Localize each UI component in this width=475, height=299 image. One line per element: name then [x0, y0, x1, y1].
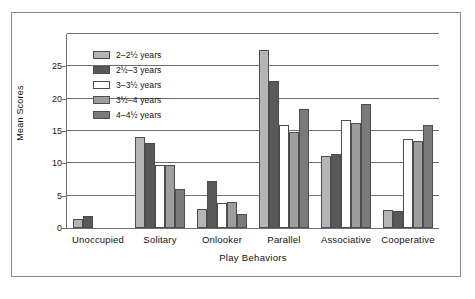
bar: [423, 125, 433, 228]
y-axis-tick-mark: [62, 131, 67, 132]
bar: [175, 189, 185, 228]
bar: [135, 137, 145, 228]
legend-swatch: [93, 81, 110, 89]
bar: [289, 132, 299, 228]
y-axis-tick-mark: [62, 163, 67, 164]
bar: [269, 81, 279, 228]
bar: [331, 154, 341, 228]
legend-item: 3–3½ years: [93, 78, 198, 92]
bar: [351, 123, 361, 228]
legend: 2–2½ years2½–3 years3–3½ years3½–4 years…: [93, 48, 198, 123]
y-axis-title: Mean Scores: [15, 68, 25, 158]
y-axis-tick-label: 0: [40, 224, 62, 233]
bar: [321, 156, 331, 228]
bar: [197, 209, 207, 228]
bar: [383, 210, 393, 228]
y-axis-tick-mark: [62, 228, 67, 229]
legend-label: 3½–4 years: [116, 95, 161, 105]
bar: [403, 139, 413, 228]
bar-cluster: [259, 34, 309, 228]
legend-label: 4–4½ years: [116, 110, 161, 120]
y-axis-tick-label: 20: [40, 95, 62, 104]
bar: [393, 211, 403, 228]
bar-group: Parallel: [259, 34, 309, 228]
bar-group: Onlooker: [197, 34, 247, 228]
y-axis-tick-label: 10: [40, 159, 62, 168]
legend-swatch: [93, 111, 110, 119]
legend-item: 3½–4 years: [93, 93, 198, 107]
y-axis-tick-mark: [62, 196, 67, 197]
bar-cluster: [383, 34, 433, 228]
x-axis-tick-label: Cooperative: [358, 234, 458, 245]
bar: [299, 109, 309, 228]
bar: [341, 120, 351, 228]
bar: [361, 104, 371, 228]
legend-item: 2½–3 years: [93, 63, 198, 77]
bar: [237, 214, 247, 228]
y-axis-tick-label: 25: [40, 62, 62, 71]
legend-swatch: [93, 96, 110, 104]
bar: [145, 143, 155, 228]
bar-cluster: [197, 34, 247, 228]
bar-group: Cooperative: [383, 34, 433, 228]
legend-label: 2½–3 years: [116, 65, 161, 75]
legend-label: 3–3½ years: [116, 80, 161, 90]
bar: [279, 125, 289, 228]
bar: [259, 50, 269, 228]
bar: [227, 202, 237, 229]
bar: [155, 165, 165, 228]
bar: [413, 141, 423, 228]
y-axis-tick-mark: [62, 99, 67, 100]
bar: [83, 216, 93, 228]
x-axis-line: [67, 228, 439, 229]
y-axis-tick-label: 15: [40, 127, 62, 136]
bar-cluster: [321, 34, 371, 228]
bar: [207, 181, 217, 228]
bar: [217, 203, 227, 228]
legend-label: 2–2½ years: [116, 50, 161, 60]
y-axis-tick-label: 5: [40, 192, 62, 201]
bar-group: Associative: [321, 34, 371, 228]
legend-swatch: [93, 51, 110, 59]
y-axis-tick-mark: [62, 66, 67, 67]
legend-swatch: [93, 66, 110, 74]
bar: [165, 165, 175, 228]
figure: Mean Scores 0510152025 UnoccupiedSolitar…: [0, 0, 475, 299]
y-axis-tick-labels: 0510152025: [34, 0, 62, 299]
legend-item: 2–2½ years: [93, 48, 198, 62]
bar: [73, 219, 83, 228]
x-axis-title: Play Behaviors: [67, 252, 439, 263]
legend-item: 4–4½ years: [93, 108, 198, 122]
